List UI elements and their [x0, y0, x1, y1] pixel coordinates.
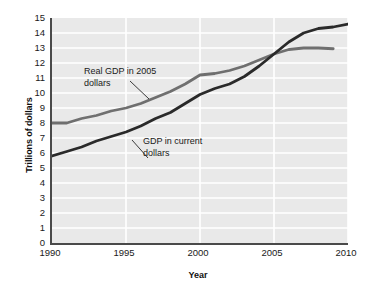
y-tick-label: 7 — [25, 133, 45, 143]
y-tick-label: 4 — [25, 178, 45, 188]
x-tick-label: 2005 — [249, 248, 295, 258]
y-tick-label: 11 — [25, 73, 45, 83]
x-tick-label: 1990 — [27, 248, 73, 258]
y-tick-label: 15 — [25, 13, 45, 23]
y-tick-label: 1 — [25, 223, 45, 233]
y-tick-label: 6 — [25, 148, 45, 158]
y-tick-label: 12 — [25, 58, 45, 68]
x-tick-label: 2010 — [323, 248, 368, 258]
y-tick-label: 3 — [25, 193, 45, 203]
x-tick-label: 1995 — [101, 248, 147, 258]
plot-area — [50, 18, 348, 245]
plot-canvas — [52, 18, 348, 243]
y-tick-label: 8 — [25, 118, 45, 128]
gridlines — [52, 18, 348, 243]
y-tick-label: 9 — [25, 103, 45, 113]
gdp-line-chart: Trillions of dollars Year 01234567891011… — [0, 0, 368, 290]
annotation-real-gdp: Real GDP in 2005 dollars — [84, 66, 156, 89]
y-tick-label: 5 — [25, 163, 45, 173]
y-tick-label: 10 — [25, 88, 45, 98]
y-tick-label: 13 — [25, 43, 45, 53]
x-axis-title: Year — [50, 270, 346, 280]
annotation-current-gdp: GDP in current dollars — [143, 136, 202, 159]
y-tick-label: 14 — [25, 28, 45, 38]
x-tick-label: 2000 — [175, 248, 221, 258]
y-tick-label: 2 — [25, 208, 45, 218]
